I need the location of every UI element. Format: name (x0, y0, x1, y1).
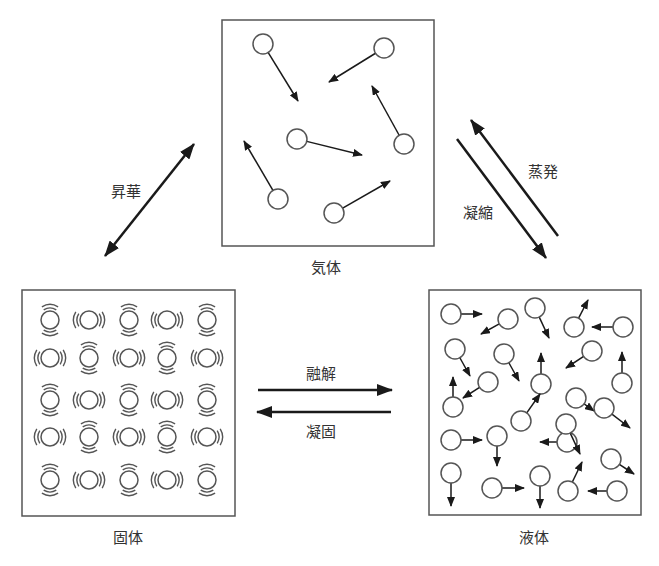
vibration-arc-icon (117, 431, 119, 444)
vibration-arc-icon (180, 312, 182, 328)
solid-molecule-vibrating (41, 385, 59, 416)
vibration-arc-icon (42, 385, 58, 387)
vibration-arc-icon (81, 422, 97, 424)
vibration-arc-icon (77, 394, 79, 407)
vibration-arc-icon (83, 346, 96, 348)
vibration-arc-icon (142, 350, 144, 366)
vibration-arc-icon (123, 388, 136, 390)
molecule-circle (80, 391, 98, 409)
solid-molecule-vibrating (80, 422, 98, 453)
gas-label: 気体 (311, 256, 341, 277)
molecule-circle (607, 481, 627, 501)
vibration-arc-icon (199, 333, 215, 335)
velocity-arrow (343, 181, 390, 208)
velocity-arrow (268, 53, 298, 101)
molecule-circle (525, 298, 545, 318)
vibration-arc-icon (201, 410, 214, 412)
velocity-arrow (579, 300, 588, 318)
vibration-arc-icon (161, 368, 174, 370)
solid-molecules (35, 305, 223, 496)
velocity-arrow (481, 324, 499, 334)
vibration-arc-icon (121, 305, 137, 307)
vibration-arc-icon (121, 465, 137, 467)
velocity-arrow (619, 464, 634, 474)
velocity-arrow (584, 404, 594, 411)
molecule-circle (594, 398, 614, 418)
molecule-circle (80, 471, 98, 489)
molecule-circle (80, 311, 98, 329)
liquid-molecule (511, 394, 540, 431)
solid-molecule-vibrating (158, 343, 176, 374)
vibration-arc-icon (123, 308, 136, 310)
vibration-arc-icon (217, 431, 219, 444)
liquid-molecule (531, 353, 551, 394)
molecule-circle (478, 372, 498, 392)
molecule-circle (198, 349, 216, 367)
vibration-arc-icon (159, 422, 175, 424)
phase-diagram (0, 0, 659, 566)
molecule-circle (613, 317, 633, 337)
melting-label: 融解 (306, 362, 336, 383)
vibration-arc-icon (74, 392, 76, 408)
vibration-arc-icon (99, 474, 101, 487)
vibration-arc-icon (35, 350, 37, 366)
vibration-arc-icon (177, 474, 179, 487)
vibration-arc-icon (60, 431, 62, 444)
vibration-arc-icon (155, 314, 157, 327)
liquid-molecules (441, 298, 634, 508)
vibration-arc-icon (199, 493, 215, 495)
vibration-arc-icon (83, 447, 96, 449)
molecule-circle (482, 478, 502, 498)
vibration-arc-icon (42, 333, 58, 335)
vibration-arc-icon (201, 388, 214, 390)
molecule-circle (158, 428, 176, 446)
liquid-molecule (441, 304, 482, 324)
vibration-arc-icon (199, 385, 215, 387)
molecule-circle (601, 449, 621, 469)
vibration-arc-icon (192, 429, 194, 445)
vibration-arc-icon (121, 385, 137, 387)
solid-molecule-vibrating (198, 305, 216, 336)
vibration-arc-icon (199, 413, 215, 415)
liquid-molecule (594, 398, 630, 428)
vibration-arc-icon (142, 429, 144, 445)
vibration-arc-icon (161, 346, 174, 348)
vibration-arc-icon (44, 468, 57, 470)
molecule-circle (120, 349, 138, 367)
liquid-molecule (525, 298, 549, 338)
molecule-circle (198, 391, 216, 409)
molecule-circle (324, 203, 344, 223)
vibration-arc-icon (77, 314, 79, 327)
molecule-circle (198, 428, 216, 446)
molecule-circle (80, 428, 98, 446)
vibration-arc-icon (74, 472, 76, 488)
vibration-arc-icon (152, 472, 154, 488)
liquid-molecule (566, 388, 594, 411)
molecule-circle (158, 471, 176, 489)
gas-molecule (324, 181, 390, 223)
liquid-molecule (601, 449, 634, 474)
solid-molecule-vibrating (35, 428, 66, 446)
vibration-arc-icon (159, 450, 175, 452)
velocity-arrow (463, 387, 480, 398)
molecule-circle (287, 129, 307, 149)
vibration-arc-icon (199, 465, 215, 467)
velocity-arrow (307, 141, 362, 155)
freezing-label: 凝固 (306, 420, 336, 441)
vibration-arc-icon (121, 413, 137, 415)
velocity-arrow (460, 358, 470, 376)
vibration-arc-icon (123, 490, 136, 492)
velocity-arrow (566, 356, 584, 368)
vibration-arc-icon (177, 394, 179, 407)
vibration-arc-icon (195, 352, 197, 365)
molecule-circle (530, 466, 550, 486)
vibration-arc-icon (83, 425, 96, 427)
vibration-arc-icon (44, 388, 57, 390)
condensation-label: 凝縮 (463, 201, 493, 222)
liquid-molecule (482, 478, 524, 498)
molecule-circle (441, 304, 461, 324)
vibration-arc-icon (38, 431, 40, 444)
molecule-circle (158, 311, 176, 329)
vibration-arc-icon (139, 352, 141, 365)
solid-molecule-vibrating (158, 422, 176, 453)
